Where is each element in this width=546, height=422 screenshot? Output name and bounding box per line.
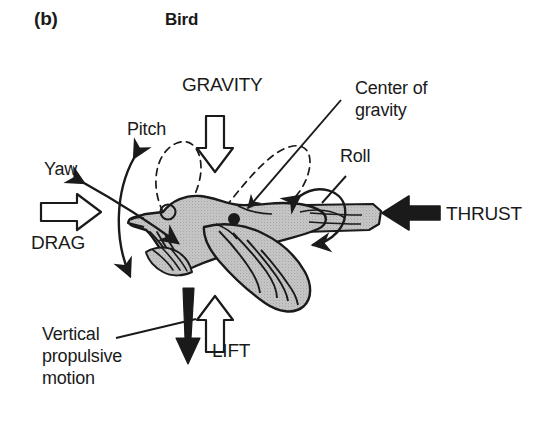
center-of-gravity-label-line2: gravity — [355, 100, 407, 120]
roll-label: Roll — [340, 146, 370, 166]
gravity-arrow-icon — [197, 116, 233, 172]
lift-label: LIFT — [212, 340, 250, 361]
pitch-label: Pitch — [127, 119, 166, 139]
center-of-gravity-dot-icon — [228, 213, 240, 225]
vertical-propulsive-label-line1: Vertical — [42, 324, 99, 344]
bird-body-icon — [128, 196, 381, 312]
yaw-label: Yaw — [44, 159, 77, 179]
panel-title: Bird — [165, 10, 198, 29]
drag-arrow-icon — [41, 194, 101, 230]
thrust-arrow-icon — [382, 196, 440, 230]
gravity-label: GRAVITY — [182, 74, 263, 95]
bird-flight-forces-figure: (b) Bird GRAVITY Center of gravity Pitch… — [0, 0, 546, 422]
drag-label: DRAG — [31, 232, 85, 253]
center-of-gravity-leader-icon — [248, 100, 341, 208]
vertical-propulsive-label-line3: motion — [42, 368, 95, 388]
thrust-label: THRUST — [446, 203, 522, 224]
vertical-propulsive-label-line2: propulsive — [42, 346, 122, 366]
center-of-gravity-label-line1: Center of — [355, 78, 427, 98]
vertical-propulsive-arrow-icon — [176, 288, 200, 364]
panel-letter: (b) — [34, 8, 58, 29]
